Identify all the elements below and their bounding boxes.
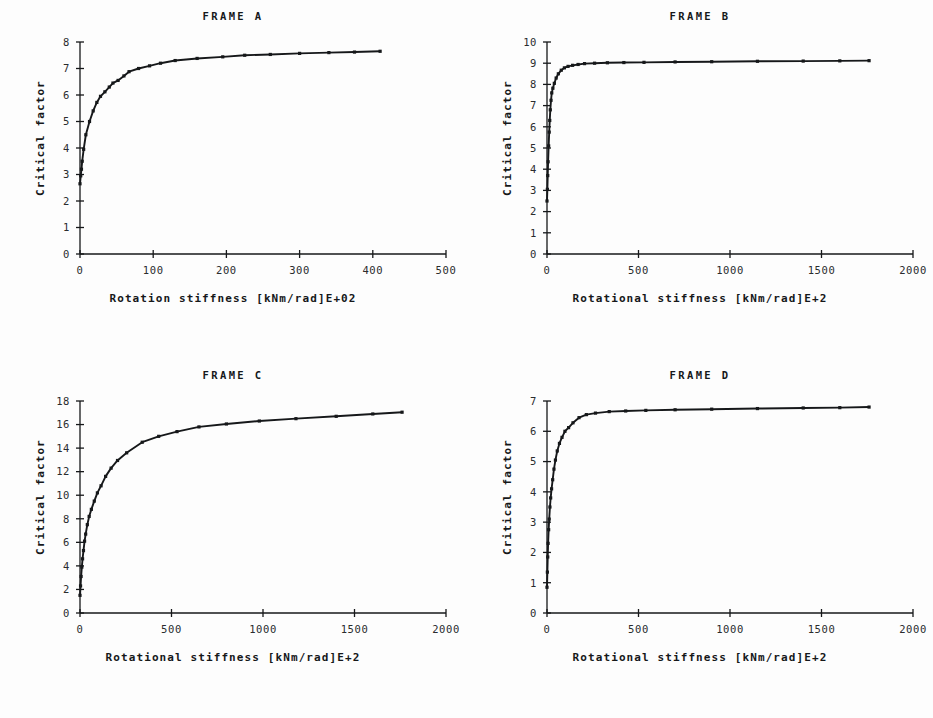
data-point-marker — [79, 174, 82, 177]
data-point-marker — [549, 496, 552, 499]
data-point-marker — [546, 174, 549, 177]
data-point-marker — [379, 50, 382, 53]
data-point-marker — [553, 82, 556, 85]
chart-panel-frame-b: FRAME B 0500100015002000012345678910 Rot… — [467, 0, 933, 359]
data-point-marker — [80, 565, 83, 568]
data-point-marker — [551, 478, 554, 481]
y-tick-label: 1 — [530, 227, 537, 239]
data-point-marker — [710, 60, 713, 63]
y-tick-label: 0 — [63, 607, 70, 619]
data-point-marker — [571, 421, 574, 424]
y-tick-label: 10 — [523, 36, 537, 48]
data-series-line — [547, 407, 869, 587]
x-axis-title: Rotational stiffness [kNm/rad]E+2 — [467, 651, 933, 664]
data-point-marker — [298, 52, 301, 55]
data-point-marker — [96, 491, 99, 494]
data-point-marker — [549, 99, 552, 102]
y-tick-label: 3 — [530, 184, 537, 196]
data-point-marker — [802, 406, 805, 409]
plot-svg: 0100200300400500012345678 — [0, 0, 466, 359]
chart-panel-frame-a: FRAME A 0100200300400500012345678 Rotati… — [0, 0, 466, 359]
data-point-marker — [674, 60, 677, 63]
data-point-marker — [563, 430, 566, 433]
data-point-marker — [269, 53, 272, 56]
data-point-marker — [159, 62, 162, 65]
data-point-marker — [566, 65, 569, 68]
x-tick-label: 2000 — [899, 264, 927, 276]
x-tick-label: 2000 — [432, 623, 460, 635]
data-point-marker — [88, 120, 91, 123]
x-tick-label: 1500 — [808, 623, 836, 635]
data-point-marker — [82, 549, 85, 552]
data-point-markers — [78, 50, 381, 186]
y-axis-title: Critical factor — [501, 439, 514, 555]
data-point-marker — [546, 571, 549, 574]
data-point-marker — [606, 61, 609, 64]
y-tick-label: 6 — [63, 536, 70, 548]
figure-sheet: FRAME A 0100200300400500012345678 Rotati… — [0, 0, 933, 718]
y-tick-label: 2 — [63, 195, 70, 207]
data-point-marker — [81, 160, 84, 163]
data-point-marker — [547, 528, 550, 531]
data-point-marker — [546, 555, 549, 558]
y-axis-title: Critical factor — [34, 439, 47, 555]
y-tick-label: 8 — [63, 36, 70, 48]
data-point-marker — [116, 459, 119, 462]
data-point-marker — [548, 518, 551, 521]
y-tick-label: 14 — [56, 442, 70, 454]
x-tick-label: 100 — [143, 264, 164, 276]
data-point-marker — [549, 108, 552, 111]
data-point-marker — [111, 81, 114, 84]
data-point-marker — [353, 50, 356, 53]
data-point-marker — [90, 508, 93, 511]
y-tick-label: 6 — [63, 89, 70, 101]
data-point-marker — [92, 109, 95, 112]
data-point-marker — [78, 594, 81, 597]
data-point-marker — [583, 62, 586, 65]
data-point-marker — [642, 61, 645, 64]
y-tick-label: 3 — [530, 516, 537, 528]
data-point-marker — [95, 101, 98, 104]
y-tick-label: 2 — [63, 583, 70, 595]
data-point-marker — [103, 90, 106, 93]
data-point-marker — [108, 85, 111, 88]
data-point-marker — [86, 523, 89, 526]
data-point-markers — [545, 59, 870, 203]
y-tick-label: 5 — [530, 142, 537, 154]
data-point-marker — [560, 436, 563, 439]
data-point-marker — [548, 119, 551, 122]
data-point-marker — [547, 144, 550, 147]
x-tick-label: 1000 — [716, 264, 744, 276]
y-tick-label: 0 — [63, 248, 70, 260]
y-tick-label: 1 — [530, 577, 537, 589]
data-point-markers — [78, 411, 403, 597]
x-tick-label: 500 — [628, 623, 649, 635]
data-point-marker — [196, 57, 199, 60]
data-point-marker — [99, 95, 102, 98]
plot-svg: 0500100015002000012345678910 — [467, 0, 933, 359]
x-tick-label: 500 — [161, 623, 182, 635]
data-point-marker — [84, 532, 87, 535]
data-point-marker — [552, 468, 555, 471]
data-point-marker — [148, 64, 151, 67]
data-point-marker — [110, 467, 113, 470]
data-point-marker — [225, 422, 228, 425]
data-point-marker — [802, 59, 805, 62]
data-point-marker — [557, 72, 560, 75]
x-tick-label: 500 — [436, 264, 457, 276]
y-tick-label: 10 — [56, 489, 70, 501]
data-point-marker — [548, 131, 551, 134]
data-point-marker — [867, 405, 870, 408]
data-point-marker — [174, 59, 177, 62]
x-tick-label: 0 — [544, 623, 551, 635]
data-point-markers — [545, 405, 870, 588]
data-point-marker — [137, 67, 140, 70]
data-point-marker — [243, 54, 246, 57]
y-tick-label: 6 — [530, 425, 537, 437]
data-point-marker — [554, 458, 557, 461]
y-tick-label: 4 — [530, 486, 537, 498]
x-axis-title: Rotation stiffness [kNm/rad]E+02 — [0, 292, 466, 305]
y-tick-label: 2 — [530, 205, 537, 217]
y-tick-label: 4 — [63, 560, 70, 572]
data-point-marker — [838, 59, 841, 62]
